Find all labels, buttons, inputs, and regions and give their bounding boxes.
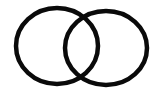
diagram-svg bbox=[0, 0, 160, 93]
right-circle bbox=[65, 11, 147, 85]
venn-diagram bbox=[0, 0, 160, 93]
left-circle bbox=[16, 8, 98, 84]
